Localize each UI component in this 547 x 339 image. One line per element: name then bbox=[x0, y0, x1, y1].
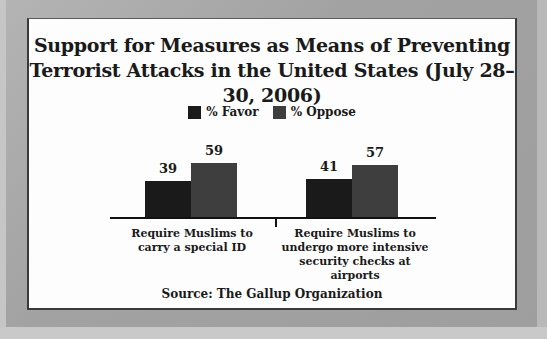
chart-source: Source: The Gallup Organization bbox=[29, 287, 515, 301]
bar-value-label-favor-2: 41 bbox=[306, 159, 352, 174]
category-label-special-id: Require Muslims to carry a special ID bbox=[119, 227, 265, 255]
x-axis-line bbox=[110, 217, 436, 219]
chart-panel: Support for Measures as Means of Prevent… bbox=[27, 18, 517, 310]
x-axis-center-tick bbox=[275, 218, 277, 227]
plot-area: Require Muslims to carry a special ID Re… bbox=[29, 19, 515, 308]
bar-value-label-oppose-2: 57 bbox=[352, 145, 398, 160]
frame-right-strip bbox=[537, 0, 547, 339]
bar-value-label-oppose-1: 59 bbox=[191, 143, 237, 158]
bar-value-label-favor-1: 39 bbox=[145, 161, 191, 176]
frame-bottom-strip bbox=[0, 327, 547, 339]
bar-oppose-1 bbox=[191, 163, 237, 217]
bar-favor-2 bbox=[306, 179, 352, 217]
category-label-security-checks: Require Muslims to undergo more intensiv… bbox=[275, 227, 435, 283]
bar-favor-1 bbox=[145, 181, 191, 217]
bar-oppose-2 bbox=[352, 165, 398, 217]
frame-left-strip bbox=[0, 0, 6, 339]
